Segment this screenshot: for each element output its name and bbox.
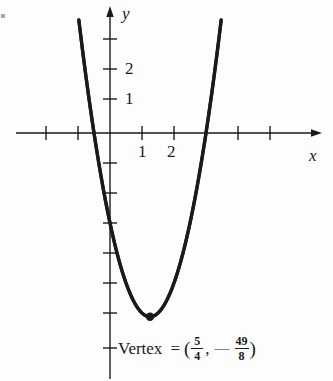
vertex-label-word: Vertex xyxy=(118,340,162,357)
vertex-x-numerator: 5 xyxy=(193,335,201,347)
vertex-annotation: Vertex = ( 5 4 , — 49 8 ) xyxy=(118,335,256,362)
x-tick-label-2: 2 xyxy=(167,143,176,160)
vertex-x-fraction: 5 4 xyxy=(191,335,203,362)
x-axis-label: x xyxy=(309,147,317,164)
minus-sign: — xyxy=(215,341,230,356)
vertex-x-denominator: 4 xyxy=(193,350,201,362)
vertex-point-marker xyxy=(146,313,154,321)
y-tick-label-1: 1 xyxy=(125,90,134,107)
vertex-y-denominator: 8 xyxy=(238,350,246,362)
vertex-y-numerator: 49 xyxy=(235,335,249,347)
vertex-y-fraction: 49 8 xyxy=(235,335,249,362)
x-axis xyxy=(16,126,322,140)
comma-separator: , xyxy=(205,340,209,357)
y-tick-label-2: 2 xyxy=(125,60,134,77)
close-paren: ) xyxy=(250,339,256,358)
parabola-curve-smooth xyxy=(79,20,221,317)
graph-figure: x y 2 1 1 2 Vertex = ( 5 4 , — 49 8 ) xyxy=(0,0,333,381)
y-axis-label: y xyxy=(122,5,130,22)
equals-sign: = xyxy=(170,340,180,357)
x-tick-label-1: 1 xyxy=(138,143,147,160)
parabola-plot xyxy=(0,0,333,381)
open-paren: ( xyxy=(184,339,190,358)
